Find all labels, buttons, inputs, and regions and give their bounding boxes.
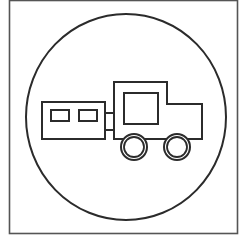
sign-canvas — [0, 0, 243, 246]
trailer-icon — [42, 102, 105, 139]
hitch-icon — [105, 113, 114, 130]
trailer-window — [51, 110, 69, 121]
sign-circle — [26, 14, 226, 220]
truck-trailer-sign-icon — [0, 0, 243, 246]
wheels — [121, 134, 190, 160]
trailer-window — [79, 110, 97, 121]
truck-icon — [114, 82, 202, 139]
truck-window — [124, 93, 158, 124]
